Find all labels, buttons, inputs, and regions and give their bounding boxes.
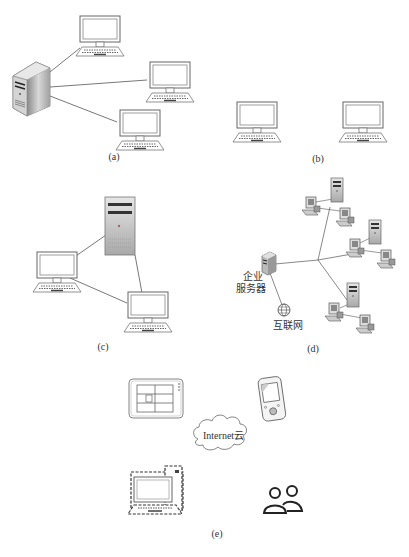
computer-icon <box>33 252 81 292</box>
handheld-device-icon <box>258 376 287 422</box>
computer-icon <box>76 16 124 56</box>
tower-server-icon <box>105 197 135 255</box>
users-icon <box>264 486 302 513</box>
workstation-icon <box>302 197 320 215</box>
caption-a: (a) <box>108 151 119 162</box>
caption-c: (c) <box>97 341 108 352</box>
dashed-computer-icon <box>128 466 183 514</box>
panel-e <box>128 376 302 514</box>
computer-icon <box>116 110 164 150</box>
tower-icon <box>347 283 359 307</box>
enterprise-server-label-line2: 服务器 <box>236 283 266 295</box>
enterprise-server-icon <box>262 252 276 275</box>
tower-icon <box>331 178 343 202</box>
tablet-icon <box>129 379 183 418</box>
computer-icon <box>146 62 194 102</box>
panel-d <box>262 178 395 333</box>
computer-icon <box>124 292 172 332</box>
computer-icon <box>233 102 281 142</box>
tower-icon <box>369 220 381 244</box>
server-icon <box>13 62 50 116</box>
caption-d: (d) <box>307 343 319 354</box>
globe-icon <box>278 304 290 316</box>
panel-c <box>33 197 172 332</box>
computer-icon <box>339 102 387 142</box>
cloud-label: Internet云 <box>203 427 244 442</box>
caption-e: (e) <box>211 528 222 539</box>
internet-label: 互联网 <box>273 320 303 332</box>
panel-a <box>13 16 194 150</box>
workstation-icon <box>325 303 343 321</box>
panel-b <box>233 102 387 142</box>
enterprise-server-label-line1: 企业 <box>243 271 263 283</box>
workstation-icon <box>346 239 364 257</box>
caption-b: (b) <box>312 153 324 164</box>
